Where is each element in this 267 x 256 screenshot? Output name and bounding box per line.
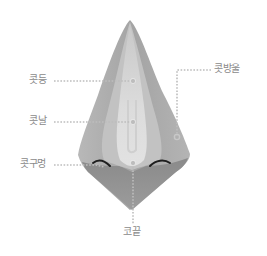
label-ala: 콧방울 (214, 63, 240, 75)
ala-leader (177, 70, 211, 136)
label-bridge: 콧등 (29, 74, 46, 86)
nose-diagram: 콧등 콧날 콧구멍 콧방울 코끝 (0, 0, 267, 256)
label-ridge: 콧날 (29, 115, 46, 127)
label-nostril: 콧구멍 (20, 158, 46, 170)
ridge-dot (130, 119, 135, 124)
nose-illustration (0, 0, 267, 256)
bridge-dot (130, 78, 135, 83)
tip-dot (130, 160, 135, 165)
label-tip: 코끝 (123, 226, 140, 238)
